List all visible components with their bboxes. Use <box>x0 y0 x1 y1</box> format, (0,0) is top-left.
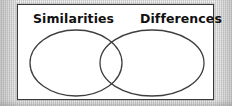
background-shade-bottom <box>0 100 232 106</box>
background-shade-left <box>0 0 18 106</box>
venn-circles-graphic <box>18 5 213 99</box>
diagram-panel: Similarities Differences <box>17 4 214 100</box>
venn-ellipse-right <box>100 30 204 96</box>
venn-ellipse-left <box>30 30 122 96</box>
venn-diagram-worksheet: Similarities Differences <box>0 0 232 106</box>
